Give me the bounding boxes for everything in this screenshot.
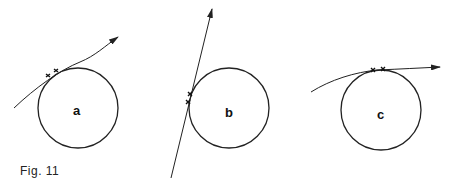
panel-b: b	[171, 9, 269, 178]
contact-marks-b	[186, 92, 192, 104]
contact-marks-a	[46, 69, 58, 77]
panel-a: a	[14, 37, 118, 148]
panel-label-b: b	[225, 105, 233, 120]
trajectory-a	[14, 37, 118, 108]
panel-label-c: c	[377, 107, 384, 122]
figure-caption: Fig. 11	[20, 164, 59, 178]
trajectory-b	[171, 9, 212, 178]
figure-canvas: a b c	[0, 0, 463, 189]
panel-label-a: a	[73, 103, 81, 118]
panel-c: c	[311, 67, 440, 150]
